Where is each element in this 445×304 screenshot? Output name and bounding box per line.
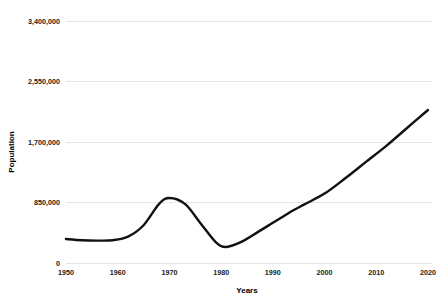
y-axis-title: Population: [7, 131, 16, 172]
y-axis-tick-label: 850,000: [34, 198, 60, 207]
x-axis-title: Years: [236, 286, 258, 295]
x-axis-tick-label: 1980: [213, 268, 229, 277]
x-axis-tick-label: 2000: [317, 268, 333, 277]
y-axis-tick-label: 3,400,000: [28, 17, 60, 26]
x-axis-tick-label: 2010: [368, 268, 384, 277]
y-axis-tick-label: 1,700,000: [28, 138, 60, 147]
x-axis-tick-label: 2020: [420, 268, 436, 277]
x-axis-tick-label: 1950: [58, 268, 74, 277]
x-axis-tick-label: 1990: [265, 268, 281, 277]
x-axis-tick-label: 1970: [161, 268, 177, 277]
y-axis-tick-label: 2,550,000: [28, 77, 60, 86]
population-line-chart: 0850,0001,700,0002,550,0003,400,000 1950…: [0, 0, 445, 304]
chart-page: 0850,0001,700,0002,550,0003,400,000 1950…: [0, 0, 445, 304]
x-axis-tick-label: 1960: [110, 268, 126, 277]
y-axis-tick-label: 0: [56, 259, 60, 268]
